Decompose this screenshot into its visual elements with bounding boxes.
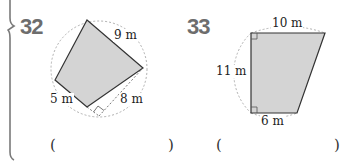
- label-32-bottom-left: 5 m: [49, 93, 74, 106]
- answer-33-close-paren: ): [334, 136, 340, 154]
- label-32-top-right: 9 m: [113, 29, 138, 42]
- section-bracket: [8, 0, 14, 160]
- label-33-top: 10 m: [271, 17, 303, 30]
- answer-33-open-paren: (: [216, 136, 222, 154]
- label-32-bottom-right: 8 m: [119, 93, 144, 106]
- answer-32-open-paren: (: [50, 136, 56, 154]
- problem-number-32: 32: [20, 14, 42, 40]
- right-angle-marker: [94, 106, 105, 112]
- answer-32-close-paren: ): [168, 136, 174, 154]
- label-33-bottom: 6 m: [260, 115, 285, 128]
- problem-number-33: 33: [187, 14, 209, 40]
- label-33-left: 11 m: [215, 65, 247, 78]
